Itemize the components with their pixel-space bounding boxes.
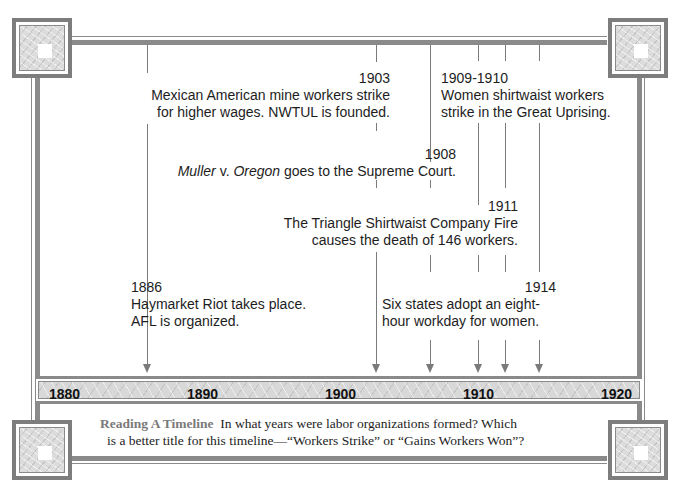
event-line-1903 <box>376 45 377 62</box>
frame-left-line <box>35 78 40 420</box>
event-line-1909-1910 <box>478 340 479 364</box>
event-line-1911 <box>505 340 506 364</box>
event-1914: 1914 Six states adopt an eight- hour wor… <box>382 279 556 330</box>
frame-right-line <box>644 78 645 420</box>
event-text: Haymarket Riot takes place. <box>131 296 361 313</box>
corner-ornament-bottom-left <box>12 420 72 480</box>
corner-ornament-top-right <box>608 18 668 78</box>
frame-top-line <box>72 40 607 45</box>
event-1886: 1886 Haymarket Riot takes place. AFL is … <box>131 279 361 330</box>
event-year: 1903 <box>100 70 390 87</box>
event-line-1911 <box>505 255 506 272</box>
event-text: for higher wages. NWTUL is founded. <box>100 104 390 121</box>
axis-label-1900: 1900 <box>325 386 356 402</box>
event-text: Women shirtwaist workers <box>441 87 641 104</box>
event-1911: 1911 The Triangle Shirtwaist Company Fir… <box>220 198 518 249</box>
frame-top-line <box>72 36 607 37</box>
event-line-1909-1910 <box>478 45 479 61</box>
corner-ornament-top-left <box>12 18 72 78</box>
arrow-down-icon <box>372 364 380 373</box>
event-line-1903 <box>376 180 377 188</box>
event-line-1914 <box>539 340 540 364</box>
frame-left-line <box>31 78 32 420</box>
event-line-1903 <box>376 252 377 364</box>
arrow-down-icon <box>426 364 434 373</box>
event-year: 1908 <box>130 146 456 163</box>
caption-lead: Reading A Timeline <box>100 416 214 431</box>
event-text: strike in the Great Uprising. <box>441 104 641 121</box>
event-line-1903 <box>376 123 377 131</box>
event-year: 1909-1910 <box>441 70 641 87</box>
event-year: 1911 <box>220 198 518 215</box>
event-line-1909-1910 <box>478 255 479 272</box>
axis-label-1880: 1880 <box>49 386 80 402</box>
axis-label-1920: 1920 <box>601 386 632 402</box>
event-text: AFL is organized. <box>131 313 361 330</box>
frame-bottom-line <box>72 463 607 464</box>
event-1908: 1908 Muller v. Oregon goes to the Suprem… <box>130 146 456 180</box>
axis-label-1910: 1910 <box>463 386 494 402</box>
arrow-down-icon <box>474 364 482 373</box>
event-line-1908 <box>430 340 431 364</box>
event-text: Muller v. Oregon goes to the Supreme Cou… <box>130 163 456 180</box>
event-line-1911 <box>505 123 506 188</box>
event-text: The Triangle Shirtwaist Company Fire <box>220 215 518 232</box>
event-line-1886 <box>147 45 148 73</box>
reading-a-timeline-caption: Reading A Timeline In what years were la… <box>100 415 620 449</box>
frame-bottom-line <box>72 456 607 461</box>
arrow-down-icon <box>535 364 543 373</box>
event-1909-1910: 1909-1910 Women shirtwaist workers strik… <box>441 70 641 121</box>
event-line-1908 <box>430 180 431 188</box>
event-line-1914 <box>539 45 540 61</box>
event-line-1908 <box>430 45 431 162</box>
event-line-1911 <box>505 45 506 61</box>
event-text: Six states adopt an eight- <box>382 296 556 313</box>
frame-right-line <box>637 78 642 420</box>
event-text: hour workday for women. <box>382 313 556 330</box>
event-line-1914 <box>539 123 540 272</box>
event-year: 1886 <box>131 279 361 296</box>
timeline-axis-bar: 1880 1890 1900 1910 1920 <box>36 376 642 404</box>
event-line-1908 <box>430 255 431 272</box>
caption-line-1: In what years were labor organizations f… <box>214 416 518 431</box>
arrow-down-icon <box>501 364 509 373</box>
event-text: causes the death of 146 workers. <box>220 232 518 249</box>
caption-line-2: is a better title for this timeline—“Wor… <box>100 432 620 449</box>
arrow-down-icon <box>143 364 151 373</box>
event-year: 1914 <box>382 279 556 296</box>
event-line-1909-1910 <box>478 123 479 205</box>
axis-label-1890: 1890 <box>187 386 218 402</box>
event-1903: 1903 Mexican American mine workers strik… <box>100 70 390 121</box>
event-text: Mexican American mine workers strike <box>100 87 390 104</box>
